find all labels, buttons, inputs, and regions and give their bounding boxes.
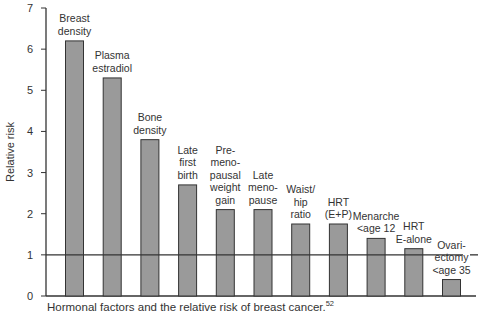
bar — [179, 185, 197, 296]
bar — [103, 78, 121, 296]
bar-label: Plasmaestradiol — [92, 49, 132, 74]
bar — [141, 140, 159, 296]
bar — [405, 249, 423, 296]
y-tick-label: 5 — [27, 84, 33, 96]
bar-label: Waist/hipratio — [286, 183, 315, 220]
bar — [443, 280, 461, 296]
y-tick-label: 0 — [27, 290, 33, 302]
y-tick-label: 4 — [27, 125, 33, 137]
bar-label: Latefirstbirth — [177, 144, 198, 181]
y-tick-label: 2 — [27, 208, 33, 220]
y-tick-label: 7 — [27, 2, 33, 14]
bar — [66, 41, 84, 296]
bar-chart: 01234567 BreastdensityPlasmaestradiolBon… — [0, 0, 481, 318]
bar — [329, 224, 347, 296]
y-axis-label: Relative risk — [4, 122, 16, 182]
bar-label: Latemeno-pause — [248, 169, 278, 206]
bar-label: Menarche<age 12 — [353, 210, 400, 235]
bar-label: Pre-meno-pausalweightgain — [209, 144, 241, 206]
bar — [216, 210, 234, 296]
y-tick-label: 6 — [27, 43, 33, 55]
bar — [367, 238, 385, 296]
bar-label: HRT(E+P) — [325, 196, 352, 221]
bar-label: Ovari-ectomy<age 35 — [432, 239, 470, 276]
bar-label: Bonedensity — [133, 111, 167, 136]
y-tick-label: 1 — [27, 249, 33, 261]
caption-reference: 52 — [326, 299, 334, 308]
bar-label: HRTE-alone — [396, 220, 432, 245]
bar — [292, 224, 310, 296]
y-tick-label: 3 — [27, 167, 33, 179]
bar — [254, 210, 272, 296]
figure-caption: Hormonal factors and the relative risk o… — [47, 299, 334, 313]
caption-text: Hormonal factors and the relative risk o… — [47, 301, 326, 313]
bar-label: Breastdensity — [58, 12, 92, 37]
